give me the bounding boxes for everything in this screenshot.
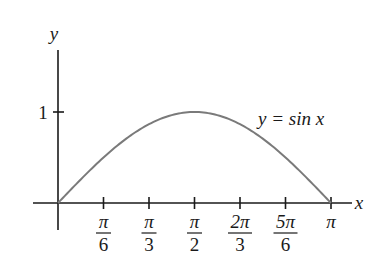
svg-text:3: 3	[235, 234, 245, 255]
svg-text:π: π	[144, 211, 154, 232]
x-tick-label-pi-3: π 3	[142, 211, 157, 255]
x-tick-label-pi: π	[326, 211, 336, 232]
x-tick-label-2pi-3: 2π 3	[228, 211, 252, 255]
svg-text:2: 2	[190, 234, 200, 255]
curve-label: y = sin x	[256, 108, 325, 129]
svg-text:3: 3	[144, 234, 154, 255]
svg-text:5π: 5π	[276, 211, 296, 232]
svg-text:π: π	[190, 211, 200, 232]
y-tick-label-1: 1	[38, 102, 48, 123]
x-axis-label: x	[354, 192, 364, 213]
svg-text:6: 6	[99, 234, 109, 255]
x-tick-label-pi-2: π 2	[187, 211, 202, 255]
svg-text:2π: 2π	[230, 211, 250, 232]
x-tick-label-5pi-6: 5π 6	[274, 211, 298, 255]
y-axis-label: y	[48, 23, 59, 44]
sine-chart: y x 1 π 6 π 3 π 2 2π 3 5π 6 π y = s	[0, 0, 391, 264]
svg-text:6: 6	[281, 234, 291, 255]
x-tick-label-pi-6: π 6	[96, 211, 111, 255]
svg-text:π: π	[99, 211, 109, 232]
